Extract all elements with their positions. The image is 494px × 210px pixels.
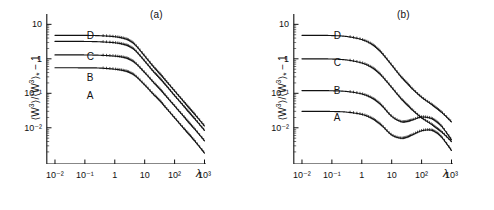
panel-b: (b) ⟨W3⟩/⟨W3⟩* − 1 λ 10⁻²10⁻¹11010²10³10… <box>247 0 494 210</box>
panel-a-plot-area <box>46 14 206 164</box>
curve-C <box>55 40 205 130</box>
y-tick-label: 10⁻¹ <box>261 88 289 98</box>
y-tick-label: 10⁻² <box>14 123 42 133</box>
curve-label-A: A <box>334 112 341 123</box>
figure-root: (a) ⟨W3⟩/⟨W3⟩* − 1 λ 10⁻²10⁻¹11010²10³10… <box>0 0 494 210</box>
panel-a: (a) ⟨W3⟩/⟨W3⟩* − 1 λ 10⁻²10⁻¹11010²10³10… <box>0 0 247 210</box>
curve-line-A <box>55 68 205 153</box>
panel-b-svg <box>293 14 453 164</box>
curve-markers-A <box>103 67 204 153</box>
curve-line-B <box>302 91 452 140</box>
curve-A <box>302 111 452 151</box>
curve-label-B: B <box>87 72 94 83</box>
x-tick-label: 10⁻² <box>46 170 64 180</box>
curve-line-D <box>55 35 205 126</box>
curve-markers-D <box>350 35 451 122</box>
curve-markers-A <box>350 111 451 151</box>
curve-label-D: D <box>87 30 94 41</box>
curve-markers-C <box>350 59 451 142</box>
curve-label-A: A <box>87 90 94 101</box>
y-tick-label: 1 <box>261 54 289 64</box>
x-tick-label: 10² <box>168 170 181 180</box>
x-tick-label: 10⁻¹ <box>323 170 341 180</box>
x-tick-label: 1 <box>359 170 364 180</box>
y-tick-label: 10 <box>14 19 42 29</box>
curve-B <box>55 54 205 141</box>
x-tick-label: 10⁻¹ <box>76 170 94 180</box>
curve-label-C: C <box>334 57 341 68</box>
panel-b-plot-area <box>293 14 453 164</box>
y-tick-label: 1 <box>14 54 42 64</box>
curve-B <box>302 90 452 140</box>
x-tick-label: 10 <box>140 170 150 180</box>
x-tick-label: 10³ <box>198 170 211 180</box>
curve-label-D: D <box>334 30 341 41</box>
curve-D <box>302 35 452 122</box>
x-tick-label: 1 <box>112 170 117 180</box>
panel-a-svg <box>46 14 206 164</box>
curve-A <box>55 67 205 154</box>
curve-label-B: B <box>334 85 341 96</box>
curve-D <box>55 34 205 126</box>
axis-spines <box>294 14 453 164</box>
y-tick-label: 10⁻² <box>261 123 289 133</box>
y-tick-label: 10⁻¹ <box>14 88 42 98</box>
x-tick-label: 10² <box>415 170 428 180</box>
x-tick-label: 10³ <box>445 170 458 180</box>
curve-label-C: C <box>87 51 94 62</box>
x-tick-label: 10 <box>387 170 397 180</box>
x-tick-label: 10⁻² <box>293 170 311 180</box>
axis-spines <box>47 14 206 164</box>
y-tick-label: 10 <box>261 19 289 29</box>
curve-markers-C <box>103 40 204 130</box>
